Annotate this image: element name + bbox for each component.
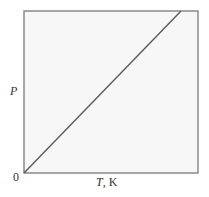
x-axis-label: T, K bbox=[96, 175, 117, 190]
plot-area bbox=[0, 0, 209, 197]
y-axis-label: P bbox=[10, 84, 17, 99]
x-axis-variable: T bbox=[96, 175, 103, 189]
plot-frame bbox=[24, 11, 198, 173]
x-axis-unit: , K bbox=[103, 175, 118, 189]
origin-tick-label: 0 bbox=[13, 170, 19, 185]
chart-canvas: P 0 T, K bbox=[0, 0, 209, 197]
